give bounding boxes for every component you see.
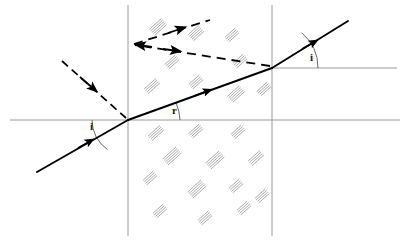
angle-arc-incidence-left [92,120,108,150]
internal-reflection-left-arrowhead [138,45,152,47]
label-angle-incidence-left: i [90,121,93,132]
entering-ray-arrowhead [78,140,92,148]
refracted-ray-arrowhead [194,90,210,96]
internal-reflection-up-arrowhead [168,28,183,33]
refraction-diagram: i r i [0,0,401,241]
ray-group [37,20,348,172]
internal-reflection-ray-left [135,45,270,66]
label-angle-refraction: r [172,105,177,116]
diagram-canvas [0,0,401,241]
label-angle-emergence-right: i [310,52,313,63]
internal-reflection-mid-arrowhead [163,49,178,51]
incident-ray-arrowhead [80,77,95,90]
